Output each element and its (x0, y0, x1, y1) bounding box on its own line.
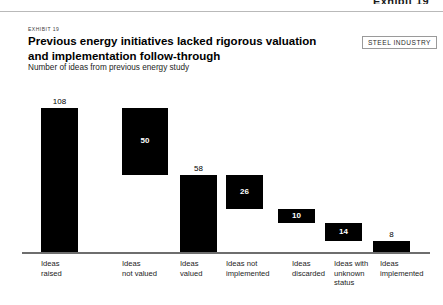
category-label-line: Ideas not (226, 259, 290, 269)
bar-value-label-5: 10 (278, 211, 315, 220)
bar-1[interactable] (41, 108, 78, 252)
category-label-line: status (334, 278, 392, 288)
bar-value-label-6: 14 (325, 227, 362, 236)
category-label-line: raised (41, 269, 101, 279)
category-label-line: Ideas (380, 259, 442, 269)
bar-value-label-7: 8 (373, 230, 410, 239)
category-label-line: implemented (226, 269, 290, 279)
header-divider (0, 11, 443, 12)
bar-value-label-3: 58 (180, 164, 217, 173)
status-badge-industry: STEEL INDUSTRY (362, 36, 437, 49)
category-label-line: implemented (380, 269, 442, 279)
category-label-line: Ideas (41, 259, 101, 269)
waterfall-chart: 10850582610148 (0, 92, 443, 257)
page-running-header: Exhibit 19 (373, 0, 429, 4)
chart-baseline-axis (22, 252, 430, 254)
category-label-7: Ideasimplemented (380, 259, 442, 278)
bar-3[interactable] (180, 175, 217, 252)
page-subtitle: Number of ideas from previous energy stu… (28, 62, 328, 73)
bar-value-label-2: 50 (122, 136, 168, 145)
chart-category-axis: IdeasraisedIdeasnot valuedIdeasvaluedIde… (0, 259, 443, 303)
page-title: Previous energy initiatives lacked rigor… (28, 34, 338, 63)
exhibit-label: EXHIBIT 19 (28, 26, 59, 32)
bar-value-label-1: 108 (41, 97, 78, 106)
category-label-1: Ideasraised (41, 259, 101, 278)
category-label-4: Ideas notimplemented (226, 259, 290, 278)
bar-7[interactable] (373, 241, 410, 252)
bar-value-label-4: 26 (226, 187, 263, 196)
